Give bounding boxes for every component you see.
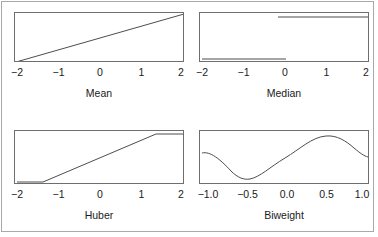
x-axis-mean: −2 −1 0 1 2 (14, 65, 184, 81)
tick-label: 1 (139, 187, 145, 201)
panel-biweight: −1.0 −0.5 0.0 0.5 1.0 Biweight (199, 130, 369, 226)
tick-label: −2 (11, 187, 23, 201)
tick-label: −1 (238, 65, 250, 79)
panel-title-median: Median (199, 86, 369, 100)
tick-label: 1.0 (355, 187, 370, 201)
plot-line-median (200, 13, 369, 62)
tick-label: 1 (139, 65, 145, 79)
tick-label: 2 (178, 65, 184, 79)
panel-title-mean: Mean (14, 86, 184, 100)
tick-label: 2 (363, 65, 369, 79)
plot-line-huber (15, 131, 184, 184)
x-axis-huber: −2 −1 0 1 2 (14, 187, 184, 203)
tick-label: 0.0 (280, 187, 295, 201)
tick-label: 0 (282, 65, 288, 79)
panel-mean: −2 −1 0 1 2 Mean (14, 12, 184, 108)
tick-label: 0 (97, 65, 103, 79)
plot-line-mean (15, 13, 184, 62)
tick-label: 0.5 (319, 187, 334, 201)
plot-frame-mean (14, 12, 184, 62)
tick-label: 2 (178, 187, 184, 201)
panel-title-huber: Huber (14, 208, 184, 222)
x-axis-biweight: −1.0 −0.5 0.0 0.5 1.0 (199, 187, 369, 203)
tick-label: −2 (196, 65, 208, 79)
tick-label: −1.0 (198, 187, 219, 201)
plot-line-biweight (200, 131, 369, 184)
plot-frame-median (199, 12, 369, 62)
x-axis-median: −2 −1 0 1 2 (199, 65, 369, 81)
tick-label: −1 (53, 65, 65, 79)
plot-frame-biweight (199, 130, 369, 184)
panel-huber: −2 −1 0 1 2 Huber (14, 130, 184, 226)
tick-label: 1 (324, 65, 330, 79)
tick-label: −0.5 (237, 187, 258, 201)
tick-label: −1 (53, 187, 65, 201)
plot-frame-huber (14, 130, 184, 184)
tick-label: 0 (97, 187, 103, 201)
tick-label: −2 (11, 65, 23, 79)
panel-title-biweight: Biweight (199, 208, 369, 222)
figure-canvas: −2 −1 0 1 2 Mean −2 −1 0 1 2 Median (0, 0, 378, 237)
panel-median: −2 −1 0 1 2 Median (199, 12, 369, 108)
